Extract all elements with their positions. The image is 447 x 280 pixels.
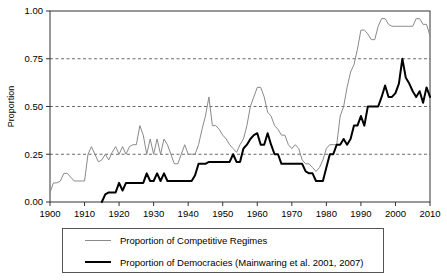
legend-label-competitive-regimes: Proportion of Competitive Regimes (120, 235, 267, 246)
chart-figure: 0.000.250.500.751.0019001910192019301940… (0, 0, 447, 280)
x-axis-tick-label: 1930 (143, 208, 164, 219)
y-axis-tick-label: 0.75 (25, 53, 44, 64)
x-axis-tick-label: 1960 (247, 208, 268, 219)
y-axis-tick-label: 0.25 (25, 149, 44, 160)
x-axis-tick-label: 1910 (74, 208, 95, 219)
series-line-1 (102, 59, 430, 202)
y-axis-tick-label: 0.50 (25, 101, 44, 112)
legend-line-swatch-thin (85, 240, 111, 241)
x-axis-tick-label: 2010 (419, 208, 440, 219)
y-axis-tick-label: 1.00 (25, 5, 44, 16)
x-axis-tick-label: 1920 (109, 208, 130, 219)
y-axis-tick-label: 0.00 (25, 196, 44, 207)
y-axis-title: Proportion (6, 86, 16, 128)
x-axis-tick-label: 1990 (350, 208, 371, 219)
x-axis-tick-label: 1900 (39, 208, 60, 219)
x-axis-tick-label: 1970 (281, 208, 302, 219)
legend-item-competitive-regimes: Proportion of Competitive Regimes (63, 229, 383, 251)
legend-item-democracies: Proportion of Democracies (Mainwaring et… (63, 251, 383, 273)
legend-line-swatch-thick (85, 261, 111, 263)
x-axis-tick-label: 2000 (385, 208, 406, 219)
chart-legend: Proportion of Competitive Regimes Propor… (62, 228, 384, 273)
x-axis-tick-label: 1940 (178, 208, 199, 219)
x-axis-tick-label: 1980 (316, 208, 337, 219)
x-axis-tick-label: 1950 (212, 208, 233, 219)
legend-label-democracies: Proportion of Democracies (Mainwaring et… (120, 257, 363, 268)
